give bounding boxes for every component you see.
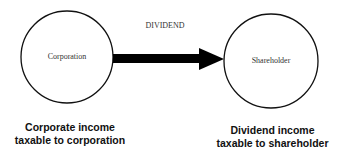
dividend-edge-label: DIVIDEND	[145, 21, 185, 30]
shareholder-label: Shareholder	[248, 56, 294, 65]
shareholder-caption-line1: Dividend income	[210, 124, 335, 137]
dividend-diagram: Corporation Shareholder DIVIDEND Corpora…	[0, 0, 340, 150]
shareholder-caption: Dividend income taxable to shareholder	[210, 124, 335, 150]
corporation-caption-line2: taxable to corporation	[0, 134, 140, 147]
dividend-arrow-icon	[113, 48, 224, 70]
corporation-label: Corporation	[47, 52, 87, 61]
shareholder-caption-line2: taxable to shareholder	[210, 137, 335, 150]
corporation-caption-line1: Corporate income	[0, 121, 140, 134]
corporation-caption: Corporate income taxable to corporation	[0, 121, 140, 147]
